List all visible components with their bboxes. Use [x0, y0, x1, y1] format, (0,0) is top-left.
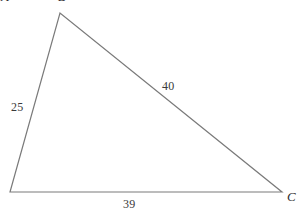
side-label-hypotenuse: 40: [162, 80, 174, 92]
side-label-base: 39: [123, 198, 135, 210]
vertex-label-c: C: [287, 190, 296, 203]
side-label-left: 25: [11, 101, 23, 113]
triangle-diagram: 25 40 39 C A B: [0, 0, 302, 214]
vertex-label-b-clipped: B: [58, 0, 66, 3]
triangle-shape: [0, 0, 302, 214]
triangle-outline: [10, 13, 282, 192]
vertex-label-a-clipped: A: [1, 0, 9, 3]
